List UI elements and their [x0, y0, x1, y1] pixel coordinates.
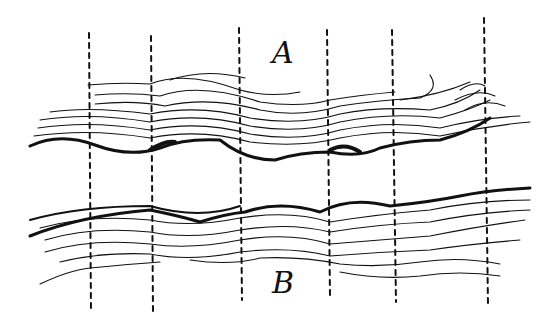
layer-b-boundary	[30, 188, 530, 236]
label-b: B	[272, 268, 294, 298]
diagram-canvas: A B	[0, 0, 552, 327]
label-a: A	[272, 38, 294, 68]
